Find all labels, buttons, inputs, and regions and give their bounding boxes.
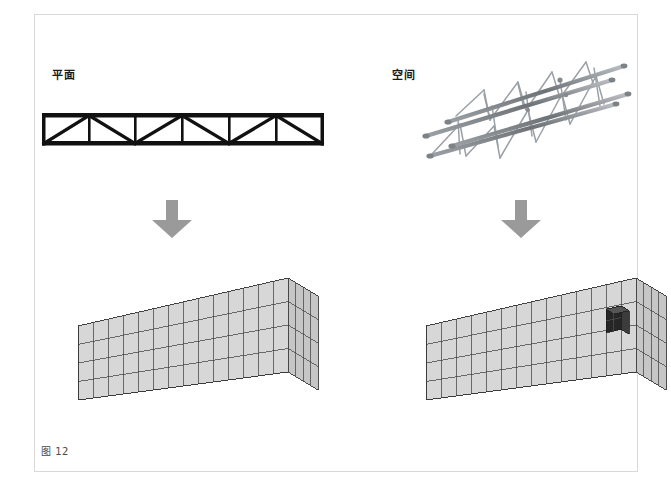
section-label-space: 空间 — [392, 66, 415, 82]
plane-truss-grid-box-diagram — [60, 268, 330, 413]
section-label-plane: 平面 — [52, 66, 75, 82]
plane-truss-elevation-diagram — [38, 105, 330, 157]
figure-caption: 图 12 — [41, 443, 69, 458]
highlighted-unit-cell — [606, 306, 629, 334]
down-arrow-icon-left — [148, 198, 196, 240]
space-truss-grid-box-diagram — [408, 268, 671, 413]
down-arrow-icon-right — [497, 198, 545, 240]
space-truss-photo-diagram — [420, 50, 635, 170]
